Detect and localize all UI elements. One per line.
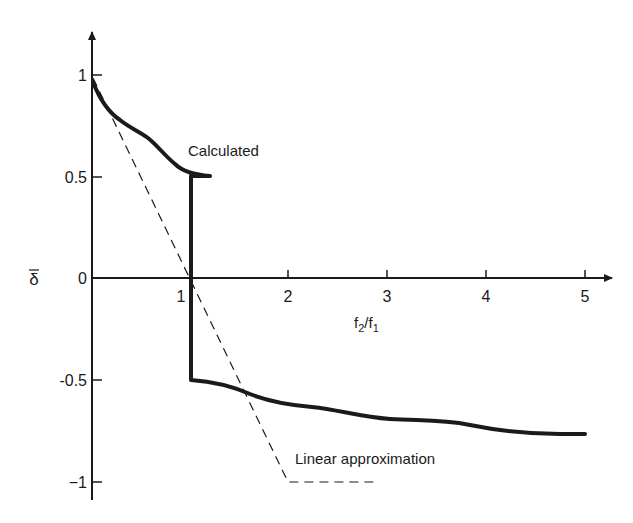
x-tick-label: 1 [177, 288, 186, 305]
y-tick-label: −1 [69, 474, 87, 491]
x-tick-label: 5 [581, 288, 590, 305]
y-tick-label: -0.5 [59, 372, 87, 389]
y-tick-label: 1 [78, 67, 87, 84]
y-tick-label: 0.5 [65, 169, 87, 186]
x-axis-label: f2/f1 [354, 314, 379, 334]
x-tick-labels: 1 2 3 4 5 [177, 288, 590, 305]
x-ticks [288, 270, 585, 278]
x-tick-label: 3 [383, 288, 392, 305]
annotation-calculated: Calculated [188, 142, 259, 159]
series-calculated [93, 82, 585, 434]
svg-text:δ: δ [29, 270, 38, 289]
x-tick-label: 4 [482, 288, 491, 305]
y-axis-label: δ [29, 270, 39, 289]
chart: 1 0.5 0 -0.5 −1 δ 1 2 3 4 5 f2/f1 Calcul… [0, 0, 633, 523]
y-tick-label: 0 [78, 270, 87, 287]
x-tick-label: 2 [284, 288, 293, 305]
series-linear-approximation [93, 78, 375, 482]
annotation-linear-approximation: Linear approximation [295, 450, 435, 467]
y-tick-labels: 1 0.5 0 -0.5 −1 [59, 67, 87, 491]
